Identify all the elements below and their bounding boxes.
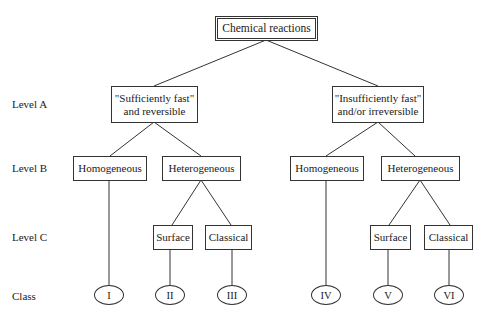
level-c-node-right-surface: Surface: [370, 225, 411, 250]
class-oval-iv: IV: [311, 285, 341, 305]
node-label: Heterogeneous: [169, 162, 235, 175]
node-label: Heterogeneous: [388, 162, 454, 175]
class-oval-i: I: [94, 285, 124, 305]
class-label-vi: VI: [443, 290, 454, 301]
class-label: Class: [12, 290, 36, 302]
node-label-line2: and reversible: [124, 105, 186, 118]
level-a-node-insufficiently-fast: "Insufficiently fast" and/or irreversibl…: [332, 86, 424, 123]
node-label-line2: and/or irreversible: [338, 105, 419, 118]
level-b-label: Level B: [12, 162, 47, 174]
level-c-node-right-classical: Classical: [424, 225, 473, 250]
level-c-node-left-classical: Classical: [205, 225, 252, 250]
class-oval-vi: VI: [434, 285, 464, 305]
level-b-node-left-homogeneous: Homogeneous: [73, 156, 147, 181]
level-a-label: Level A: [12, 98, 47, 110]
node-label: Surface: [374, 231, 408, 244]
class-oval-iii: III: [217, 285, 247, 305]
level-c-label: Level C: [12, 231, 47, 243]
class-label-iv: IV: [320, 290, 331, 301]
level-b-node-right-homogeneous: Homogeneous: [290, 156, 364, 181]
class-label-v: V: [384, 290, 392, 301]
class-oval-v: V: [373, 285, 403, 305]
root-node-chemical-reactions: Chemical reactions: [215, 16, 318, 41]
node-label-line1: "Sufficiently fast": [115, 92, 194, 105]
node-label: Surface: [156, 231, 190, 244]
level-b-node-right-heterogeneous: Heterogeneous: [381, 156, 460, 181]
level-a-node-sufficiently-fast: "Sufficiently fast" and reversible: [111, 86, 198, 123]
node-label: Classical: [209, 231, 249, 244]
root-node-label: Chemical reactions: [222, 22, 310, 35]
class-oval-ii: II: [155, 285, 185, 305]
node-label-line1: "Insufficiently fast": [335, 92, 422, 105]
class-label-i: I: [107, 290, 111, 301]
class-label-ii: II: [167, 290, 174, 301]
level-c-node-left-surface: Surface: [153, 225, 193, 250]
level-b-node-left-heterogeneous: Heterogeneous: [162, 156, 241, 181]
node-label: Classical: [429, 231, 469, 244]
node-label: Homogeneous: [78, 162, 142, 175]
node-label: Homogeneous: [295, 162, 359, 175]
class-label-iii: III: [227, 290, 238, 301]
